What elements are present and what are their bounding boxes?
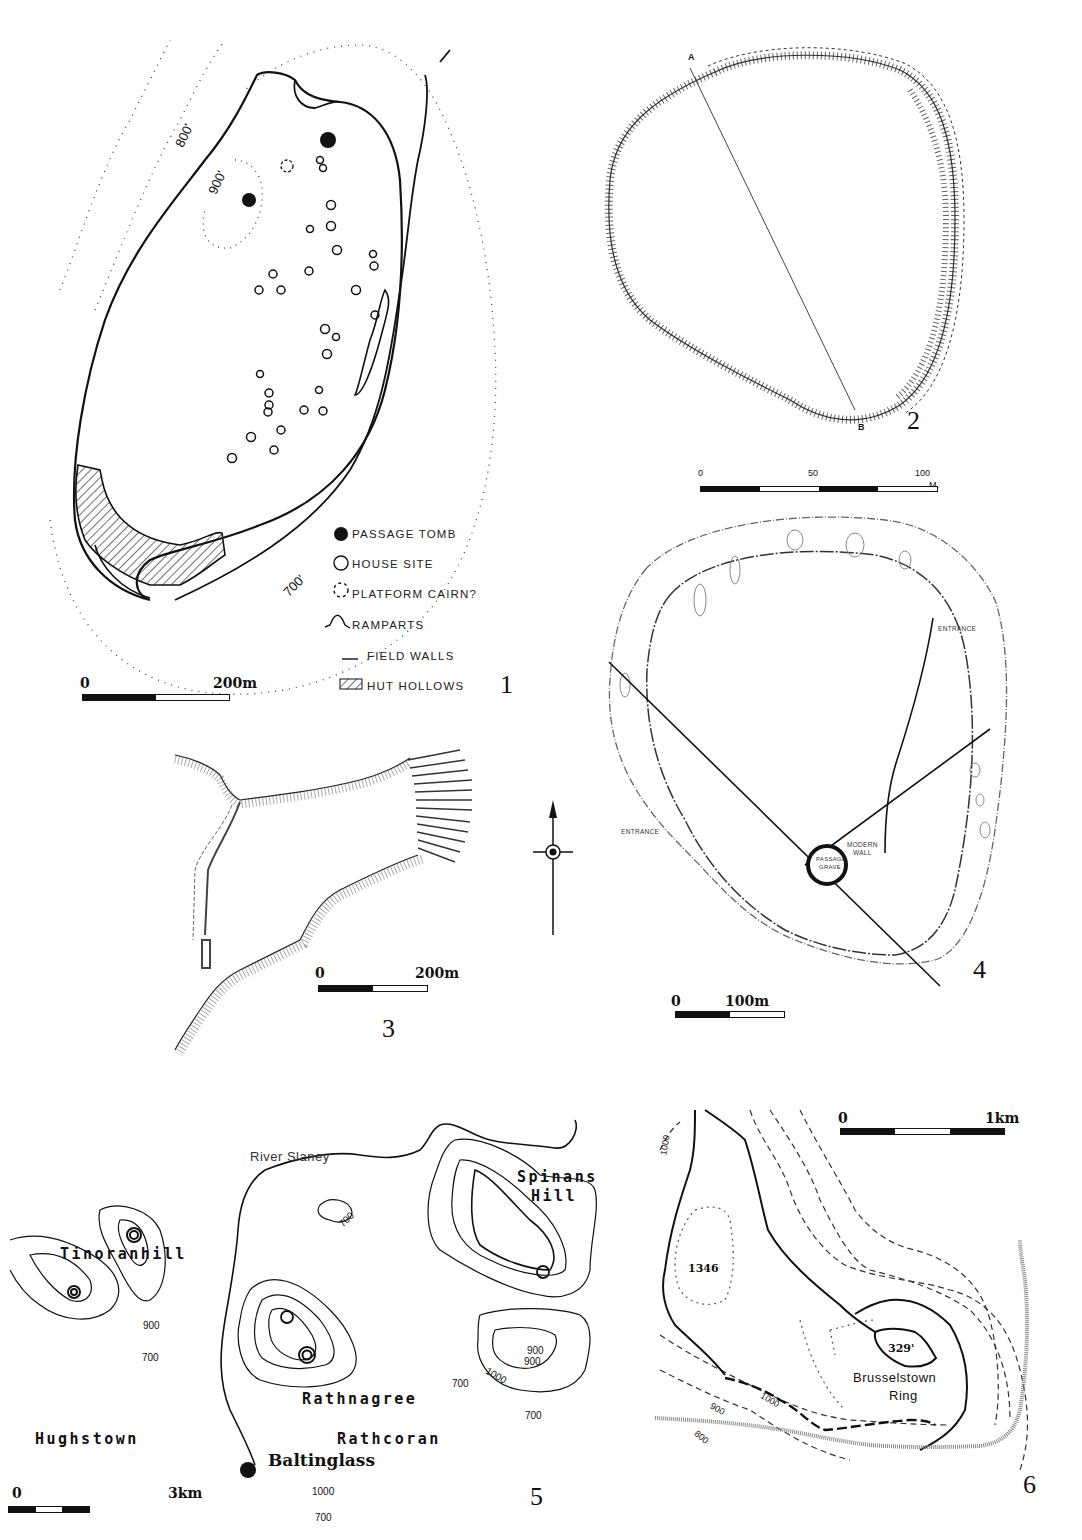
north-arrow-icon: [533, 800, 573, 940]
legend-field-walls: FIELD WALLS: [367, 650, 455, 662]
contour-label-900: 900: [527, 1345, 544, 1356]
figure-1-site-plan: 800' 900' 700' PASSAGE TOMB HOUSE SITE P…: [0, 0, 560, 720]
contour-label-900: 900: [143, 1320, 160, 1331]
scale-label-100: 100: [915, 468, 930, 478]
spot-height-1346: 1346: [688, 1262, 719, 1275]
figure-number-1: 1: [500, 670, 513, 700]
spot-height-329: 329': [888, 1342, 914, 1355]
passage-grave-label-1: PASSAGE: [816, 856, 846, 862]
figure-1-drawing: [0, 0, 560, 720]
contour-label-700: 700: [452, 1378, 469, 1389]
figure-number-4: 4: [973, 955, 986, 985]
contour-label-900: 900: [524, 1356, 541, 1367]
baltinglass-town-marker: [240, 1462, 256, 1478]
scale-end-label: 3km: [168, 1485, 202, 1501]
figure-number-5: 5: [530, 1482, 543, 1512]
entrance-label-ne: ENTRANCE: [938, 625, 976, 632]
contour-label-700: 700: [525, 1410, 542, 1421]
figure-3-drawing: [160, 730, 590, 1060]
scale-end-label: 200m: [213, 675, 257, 691]
contour-label-700: 700: [142, 1352, 159, 1363]
scale-start-label: 0: [12, 1485, 22, 1501]
passage-grave-label-2: GRAVE: [819, 864, 841, 870]
modern-wall-label-2: WALL: [853, 849, 872, 856]
scale-end-label: 100m: [725, 993, 769, 1009]
passage-tomb-marker: [320, 132, 336, 148]
scale-bar-1km: [840, 1128, 1005, 1135]
place-label-spinans: Spinans: [517, 1168, 598, 1186]
legend-passage-tomb: PASSAGE TOMB: [352, 528, 457, 540]
figure-5-baltinglass-map: River Slaney Tinoranhill Hughstown Rathn…: [0, 1120, 610, 1530]
figure-number-6: 6: [1023, 1470, 1036, 1500]
scale-end-label: 1km: [985, 1110, 1019, 1126]
place-label-rathcoran: Rathcoran: [337, 1430, 441, 1448]
section-label-b: B: [858, 422, 865, 432]
scale-start-label: 0: [838, 1110, 848, 1126]
scale-end-label: 200m: [415, 965, 459, 981]
passage-tomb-marker: [242, 193, 256, 207]
scale-label-0: 0: [698, 468, 703, 478]
figure-2-enclosure-plan: A B 2 0 50 100 M.: [590, 20, 1060, 480]
modern-wall-label-1: MODERN: [847, 841, 878, 848]
site-label-brusselstown: Brusselstown: [853, 1370, 936, 1385]
scale-bar-200m-fig3: [318, 985, 428, 992]
figure-number-3: 3: [382, 1014, 395, 1044]
scale-start-label: 0: [80, 675, 90, 691]
section-label-a: A: [688, 52, 695, 62]
place-label-baltinglass: Baltinglass: [268, 1450, 375, 1470]
figure-4-drawing: [595, 500, 1065, 1020]
scale-bar-100m-fig2: [700, 486, 938, 492]
scale-start-label: 0: [315, 965, 325, 981]
place-label-hughstown: Hughstown: [35, 1430, 139, 1448]
contour-label-1000: 1000: [312, 1486, 334, 1497]
scale-bar-100m-fig4: [675, 1011, 785, 1018]
contour-label-700: 700: [315, 1512, 332, 1523]
figure-6-drawing: [650, 1110, 1070, 1530]
legend-ramparts: RAMPARTS: [352, 619, 424, 631]
entrance-label-w: ENTRANCE: [621, 828, 659, 835]
place-label-hill: Hill: [531, 1187, 577, 1205]
figure-4-hillfort-plan: ENTRANCE ENTRANCE PASSAGE GRAVE MODERN W…: [595, 500, 1065, 1020]
figure-2-drawing: [590, 20, 1060, 480]
place-label-tinoranhill: Tinoranhill: [60, 1245, 187, 1263]
place-label-rathnagree: Rathnagree: [302, 1390, 417, 1408]
legend-house-site: HOUSE SITE: [352, 558, 434, 570]
figure-6-brusselstown-ring-map: 0 1km 1346 329' Brusselstown Ring 1000 1…: [650, 1110, 1070, 1530]
legend-platform-cairn: PLATFORM CAIRN?: [352, 588, 477, 600]
legend-hut-hollows: HUT HOLLOWS: [367, 680, 464, 692]
scale-start-label: 0: [671, 993, 681, 1009]
figure-3-promontory-plan: 0 200m 3: [160, 730, 590, 1060]
figure-number-2: 2: [907, 406, 920, 436]
scale-bar-3km: [8, 1506, 90, 1513]
scale-label-50: 50: [808, 468, 818, 478]
river-label: River Slaney: [250, 1149, 330, 1164]
site-label-ring: Ring: [889, 1388, 918, 1403]
scale-bar-200m: [82, 694, 230, 701]
